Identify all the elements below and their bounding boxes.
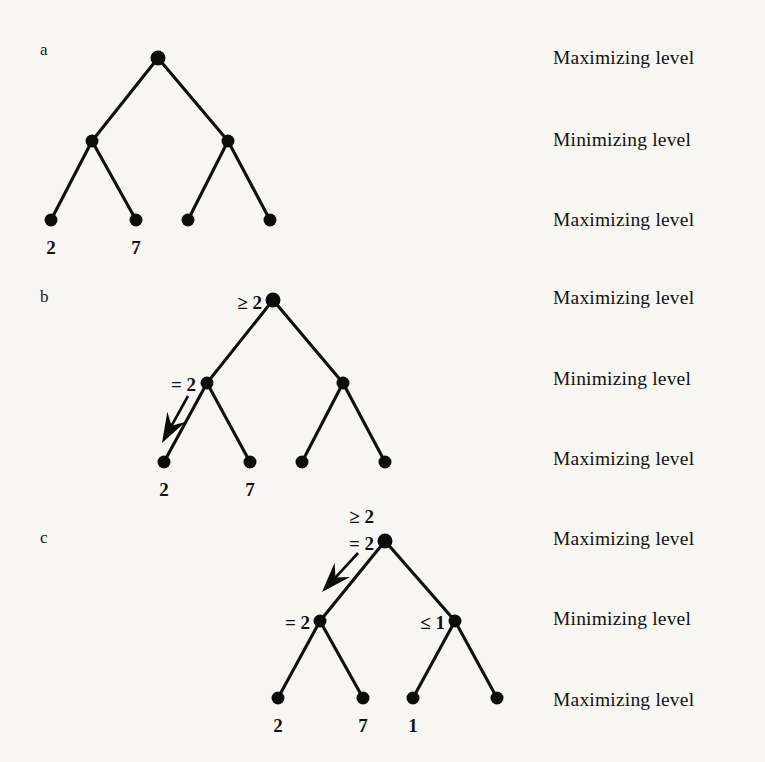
arrow-head xyxy=(322,563,350,592)
tree-edge xyxy=(188,141,228,220)
node-annotation: = 2 xyxy=(314,534,374,553)
tree-node[interactable] xyxy=(314,615,327,628)
tree-node[interactable] xyxy=(449,615,462,628)
tree-edge xyxy=(343,383,385,462)
tree-node[interactable] xyxy=(266,293,281,308)
tree-edge xyxy=(320,621,363,698)
tree-node[interactable] xyxy=(182,214,195,227)
tree-edge xyxy=(92,58,158,141)
arrow-shaft xyxy=(333,553,358,581)
level-label: Minimizing level xyxy=(553,130,691,150)
tree-node[interactable] xyxy=(86,135,99,148)
tree-node[interactable] xyxy=(337,377,350,390)
node-annotation: ≤ 1 xyxy=(385,613,445,632)
node-annotation: = 2 xyxy=(136,375,196,394)
tree-node[interactable] xyxy=(378,534,393,549)
panel-letter: a xyxy=(40,41,48,58)
tree-node[interactable] xyxy=(201,377,214,390)
leaf-value-label: 2 xyxy=(152,480,176,499)
tree-node[interactable] xyxy=(151,51,166,66)
tree-node[interactable] xyxy=(244,456,257,469)
leaf-value-label: 7 xyxy=(238,480,262,499)
node-annotation: ≥ 2 xyxy=(202,293,262,312)
tree-edge xyxy=(302,383,343,462)
level-label: Maximizing level xyxy=(553,210,694,230)
leaf-value-label: 7 xyxy=(124,238,148,257)
tree-edge xyxy=(228,141,270,220)
panel-letter: c xyxy=(40,529,48,546)
tree-node[interactable] xyxy=(222,135,235,148)
leaf-value-label: 2 xyxy=(266,716,290,735)
leaf-value-label: 1 xyxy=(401,716,425,735)
level-label: Maximizing level xyxy=(553,288,694,308)
level-label: Maximizing level xyxy=(553,690,694,710)
leaf-value-label: 2 xyxy=(39,238,63,257)
arrow-shaft xyxy=(170,396,188,429)
tree-node[interactable] xyxy=(264,214,277,227)
tree-node[interactable] xyxy=(491,692,504,705)
tree-node[interactable] xyxy=(45,214,58,227)
tree-edge xyxy=(207,383,250,462)
tree-node[interactable] xyxy=(158,456,171,469)
tree-edge xyxy=(455,621,497,698)
tree-node[interactable] xyxy=(379,456,392,469)
tree-node[interactable] xyxy=(357,692,370,705)
arrow-head xyxy=(162,412,186,443)
tree-edge xyxy=(273,300,343,383)
level-label: Maximizing level xyxy=(553,449,694,469)
level-label: Minimizing level xyxy=(553,609,691,629)
panel-letter: b xyxy=(40,288,49,305)
tree-edge xyxy=(158,58,228,141)
tree-edge xyxy=(385,541,455,621)
node-annotation: ≥ 2 xyxy=(314,507,374,526)
tree-edge xyxy=(92,141,136,220)
minimax-tree-figure: aMaximizing levelMinimizing levelMaximiz… xyxy=(0,0,765,762)
level-label: Minimizing level xyxy=(553,369,691,389)
level-label: Maximizing level xyxy=(553,48,694,68)
node-annotation: = 2 xyxy=(250,613,310,632)
tree-node[interactable] xyxy=(407,692,420,705)
leaf-value-label: 7 xyxy=(351,716,375,735)
level-label: Maximizing level xyxy=(553,529,694,549)
tree-edge xyxy=(51,141,92,220)
tree-node[interactable] xyxy=(272,692,285,705)
tree-node[interactable] xyxy=(130,214,143,227)
tree-node[interactable] xyxy=(296,456,309,469)
